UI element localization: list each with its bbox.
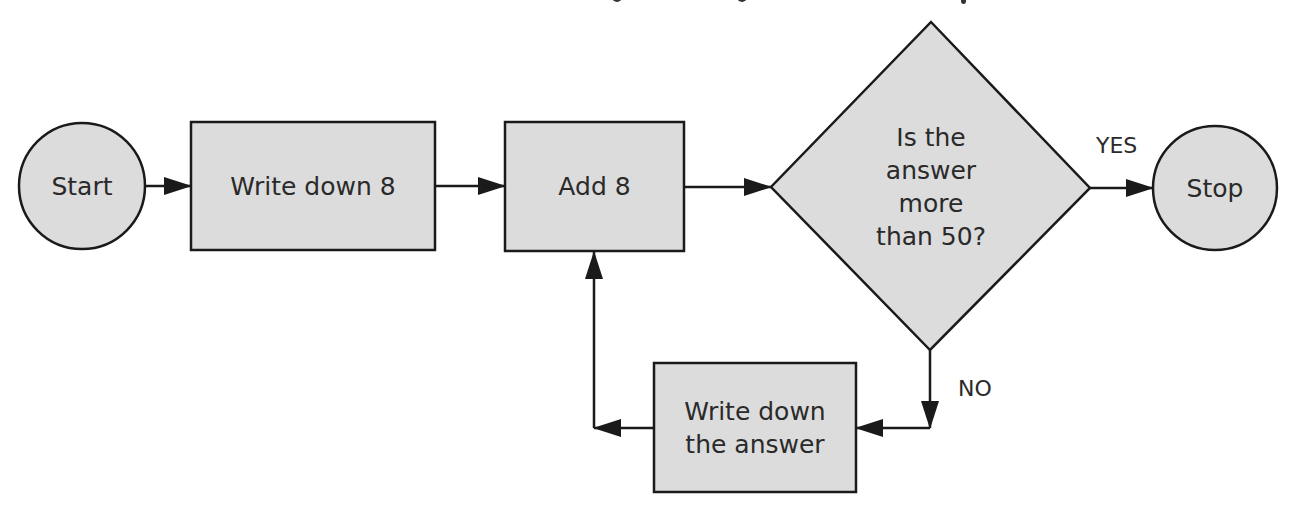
decision-line-4: than 50?: [876, 220, 986, 253]
decision-line-2: answer: [886, 154, 976, 187]
flowchart-canvas: [0, 0, 1296, 510]
write-down-8-label: Write down 8: [191, 122, 435, 250]
add-8-text: Add 8: [558, 170, 630, 203]
decision-line-3: more: [899, 187, 964, 220]
write-down-8-text: Write down 8: [230, 170, 395, 203]
decision-line-1: Is the: [896, 121, 965, 154]
decision-label: Is the answer more than 50?: [851, 104, 1011, 270]
write-answer-label: Write down the answer: [654, 363, 856, 492]
no-branch-label: NO: [958, 376, 992, 401]
add-8-label: Add 8: [505, 122, 684, 251]
stop-label: Stop: [1153, 126, 1277, 250]
write-answer-line-1: Write down: [684, 395, 825, 428]
stop-text: Stop: [1187, 172, 1244, 205]
start-text: Start: [51, 170, 112, 203]
yes-branch-label: YES: [1096, 133, 1137, 158]
start-label: Start: [19, 121, 145, 251]
write-answer-line-2: the answer: [685, 428, 824, 461]
